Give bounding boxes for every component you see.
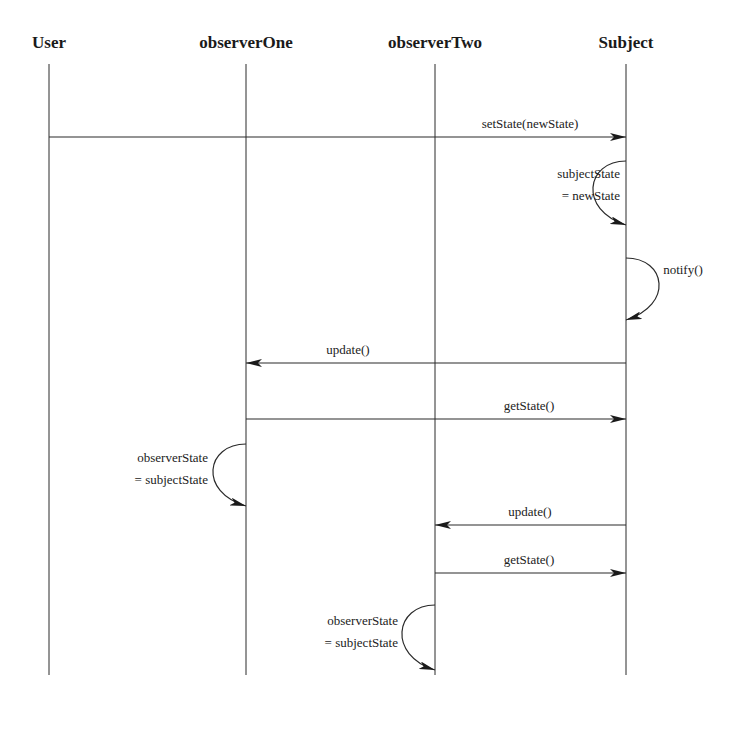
label-notify: notify(): [663, 262, 703, 278]
note-subject-state: subjectState = newState: [557, 163, 620, 207]
note-observer-one-line2: = subjectState: [135, 469, 208, 491]
sequence-diagram: User observerOne observerTwo Subject set…: [0, 0, 747, 729]
label-update-observer-two: update(): [508, 504, 551, 520]
actor-user: User: [32, 33, 66, 53]
note-observer-two-state: observerState = subjectState: [325, 610, 398, 654]
note-observer-two-line1: observerState: [325, 610, 398, 632]
note-observer-one-state: observerState = subjectState: [135, 447, 208, 491]
actor-subject: Subject: [599, 33, 654, 53]
self-loop-observer-two-state: [402, 605, 435, 670]
note-observer-one-line1: observerState: [135, 447, 208, 469]
note-subject-state-line1: subjectState: [557, 163, 620, 185]
actor-observer-one: observerOne: [199, 33, 292, 53]
label-update-observer-one: update(): [326, 342, 369, 358]
self-loop-notify: [626, 258, 659, 320]
actor-observer-two: observerTwo: [388, 33, 482, 53]
note-observer-two-line2: = subjectState: [325, 632, 398, 654]
self-loop-observer-one-state: [213, 444, 246, 506]
label-get-state-observer-one: getState(): [504, 398, 555, 414]
note-subject-state-line2: = newState: [557, 185, 620, 207]
label-set-state: setState(newState): [482, 116, 579, 132]
label-get-state-observer-two: getState(): [504, 552, 555, 568]
